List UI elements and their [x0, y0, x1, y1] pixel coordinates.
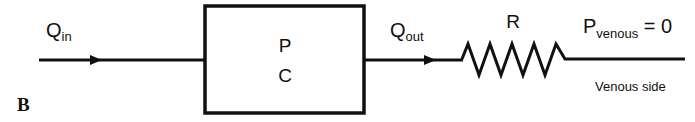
- inflow-label: Qin: [46, 19, 72, 44]
- inflow-arrow-icon: [90, 55, 102, 65]
- venous-pressure-label: Pvenous = 0: [583, 15, 672, 41]
- resistor-icon: [462, 44, 685, 75]
- outflow-label: Qout: [390, 19, 424, 44]
- outflow-arrow-icon: [424, 55, 436, 65]
- compartment-compliance-label: C: [278, 65, 292, 86]
- compartment-box: [205, 6, 364, 113]
- compartment-model-diagram: Qin P C Qout R Pvenous = 0 Venous side B: [0, 0, 695, 122]
- panel-label: B: [17, 94, 30, 115]
- resistor-label: R: [506, 11, 520, 32]
- compartment-pressure-label: P: [279, 35, 292, 56]
- venous-side-label: Venous side: [595, 79, 666, 94]
